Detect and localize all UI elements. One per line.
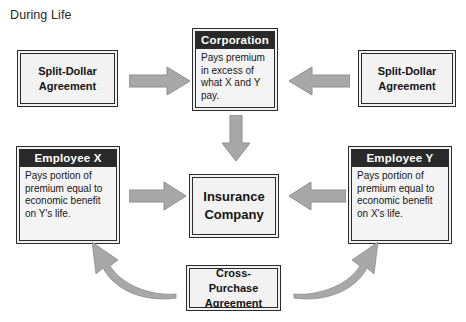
node-body: Split-Dollar Agreement (20, 53, 115, 104)
arrow-cross-purchase-to-employee-x (86, 238, 178, 300)
node-body: Insurance Company (192, 177, 276, 235)
node-text-employee-x: Pays portion of premium equal to economi… (20, 166, 116, 240)
node-body: Cross-Purchase Agreement (189, 268, 278, 308)
node-header-employee-y: Employee Y (352, 150, 448, 166)
arrow-employee-x-to-insurance-company (129, 181, 187, 211)
node-insurance-company: Insurance Company (189, 174, 279, 238)
arrow-split-dollar-left-to-corporation (129, 66, 191, 96)
arrow-split-dollar-right-to-corporation (288, 66, 350, 96)
node-body: Split-Dollar Agreement (361, 53, 453, 104)
node-label-line2: Agreement (39, 79, 96, 94)
node-body: Corporation Pays premium in excess of wh… (195, 31, 275, 108)
node-label-line2: Agreement (378, 79, 435, 94)
node-split-dollar-agreement-right: Split-Dollar Agreement (358, 50, 456, 107)
node-corporation: Corporation Pays premium in excess of wh… (192, 28, 278, 111)
node-text-corporation: Pays premium in excess of what X and Y p… (196, 48, 274, 107)
node-employee-y: Employee Y Pays portion of premium equal… (348, 146, 452, 244)
node-header-corporation: Corporation (196, 32, 274, 48)
arrow-cross-purchase-to-employee-y (292, 238, 384, 300)
node-label-line1: Split-Dollar (38, 64, 97, 79)
node-label-line1: Cross-Purchase (193, 268, 274, 296)
diagram-title: During Life (10, 8, 72, 22)
node-body: Employee X Pays portion of premium equal… (19, 149, 117, 241)
node-label-line1: Split-Dollar (378, 64, 437, 79)
node-split-dollar-agreement-left: Split-Dollar Agreement (17, 50, 118, 107)
node-body: Employee Y Pays portion of premium equal… (351, 149, 449, 241)
node-label-line2: Company (204, 206, 263, 224)
node-label-line1: Insurance (203, 188, 264, 206)
node-text-employee-y: Pays portion of premium equal to economi… (352, 166, 448, 240)
arrow-corporation-to-insurance-company (221, 115, 251, 162)
arrow-employee-y-to-insurance-company (288, 181, 346, 211)
diagram-canvas: During Life Split-Dollar Agreement Corpo… (0, 0, 466, 322)
node-employee-x: Employee X Pays portion of premium equal… (16, 146, 120, 244)
node-label-line2: Agreement (205, 296, 262, 309)
node-header-employee-x: Employee X (20, 150, 116, 166)
node-cross-purchase-agreement: Cross-Purchase Agreement (186, 265, 281, 311)
